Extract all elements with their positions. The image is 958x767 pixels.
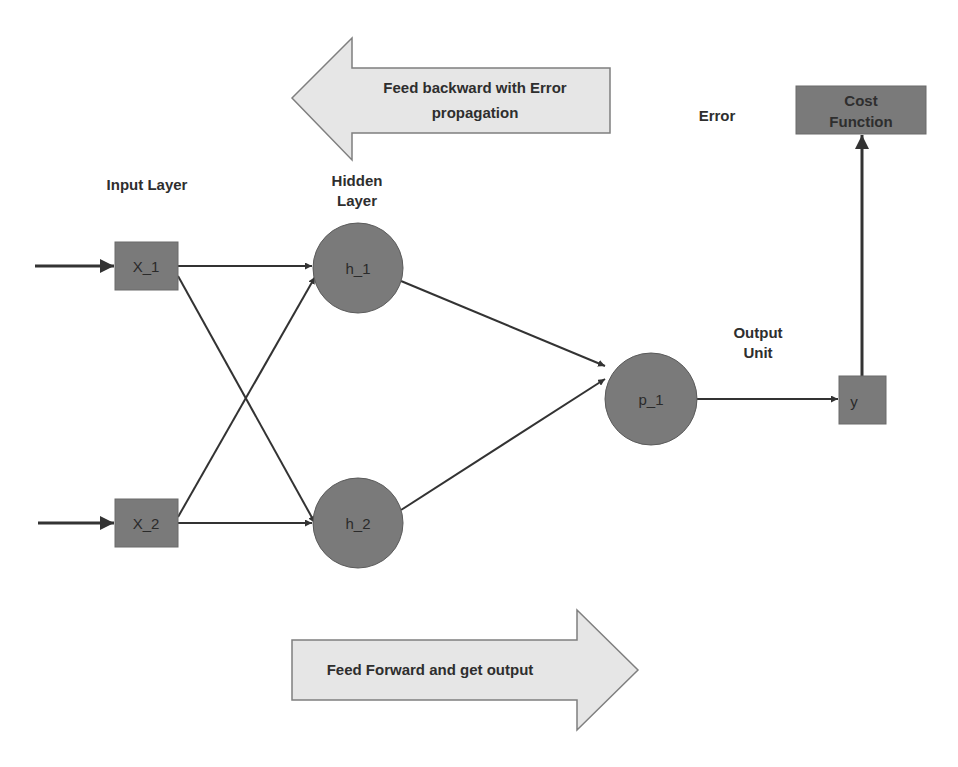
input-node-x2: X_2 xyxy=(115,499,178,547)
input-node-x1: X_1 xyxy=(115,242,178,290)
h2-label: h_2 xyxy=(345,515,370,532)
network-diagram: Feed backward with Error propagation Err… xyxy=(0,0,958,767)
cost-function-label-line1: Cost xyxy=(844,92,877,109)
feed-backward-label-line1: Feed backward with Error xyxy=(383,79,567,96)
cost-function-label-line2: Function xyxy=(829,113,892,130)
y-label: y xyxy=(850,393,858,410)
hidden-layer-label-line2: Layer xyxy=(337,192,377,209)
feed-forward-arrow: Feed Forward and get output xyxy=(292,610,638,730)
feed-backward-arrow: Feed backward with Error propagation xyxy=(292,38,610,160)
input-layer-label: Input Layer xyxy=(107,176,188,193)
hidden-node-h2: h_2 xyxy=(313,478,403,568)
x2-label: X_2 xyxy=(133,515,160,532)
p1-label: p_1 xyxy=(638,391,663,408)
output-node-p1: p_1 xyxy=(605,353,697,445)
edge-h1-p1 xyxy=(401,281,605,366)
feed-backward-label-line2: propagation xyxy=(432,104,519,121)
error-label: Error xyxy=(699,107,736,124)
feed-forward-label: Feed Forward and get output xyxy=(327,661,534,678)
y-node: y xyxy=(839,376,886,424)
output-unit-label-line1: Output xyxy=(733,324,782,341)
edge-h2-p1 xyxy=(401,379,605,510)
h1-label: h_1 xyxy=(345,260,370,277)
output-unit-label-line2: Unit xyxy=(743,344,772,361)
hidden-layer-label-line1: Hidden xyxy=(332,172,383,189)
x1-label: X_1 xyxy=(133,258,160,275)
cost-function-node: Cost Function xyxy=(796,86,926,134)
hidden-node-h1: h_1 xyxy=(313,223,403,313)
